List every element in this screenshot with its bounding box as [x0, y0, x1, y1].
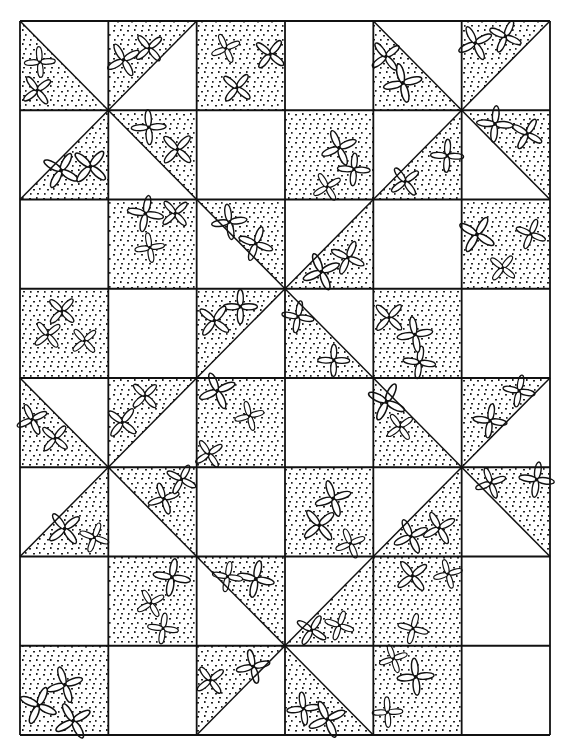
- quilt-cell: [99, 21, 196, 110]
- quilt-cell: [279, 289, 373, 378]
- quilt-cell: [373, 110, 464, 204]
- quilt-cell: [373, 467, 463, 560]
- quilt-cell: [373, 551, 466, 648]
- quilt-cell: [187, 366, 285, 476]
- quilt-cell: [362, 21, 461, 110]
- quilt-cell: [188, 646, 285, 735]
- quilt-cell: [108, 555, 196, 646]
- quilt-cell: [462, 372, 550, 467]
- quilt-cell: [14, 21, 108, 113]
- quilt-cell: [462, 459, 557, 556]
- quilt-cell: [285, 467, 373, 563]
- quilt-cell: [189, 289, 285, 378]
- quilt-pattern: [0, 0, 570, 749]
- quilt-cell: [450, 200, 551, 289]
- quilt-cell: [197, 200, 285, 289]
- quilt-cell: [371, 640, 461, 735]
- quilt-cell: [462, 104, 550, 199]
- quilt-cell: [20, 288, 108, 378]
- quilt-cell: [98, 374, 197, 467]
- quilt-cell: [13, 646, 109, 748]
- quilt-cell: [360, 375, 462, 467]
- patterned-patch: [197, 21, 285, 110]
- quilt-cells: [10, 14, 556, 748]
- quilt-cell: [108, 191, 197, 289]
- quilt-cell: [20, 467, 114, 557]
- quilt-cell: [108, 458, 203, 557]
- quilt-cell: [108, 109, 203, 200]
- quilt-cell: [451, 14, 550, 111]
- quilt-cell: [285, 646, 373, 745]
- quilt-cell: [285, 200, 373, 298]
- quilt-cell: [10, 378, 108, 467]
- quilt-cell: [197, 21, 294, 111]
- quilt-cell: [20, 110, 118, 199]
- quilt-cell: [197, 557, 285, 646]
- quilt-cell: [365, 289, 462, 381]
- quilt-cell: [285, 557, 373, 654]
- quilt-cell: [285, 110, 373, 208]
